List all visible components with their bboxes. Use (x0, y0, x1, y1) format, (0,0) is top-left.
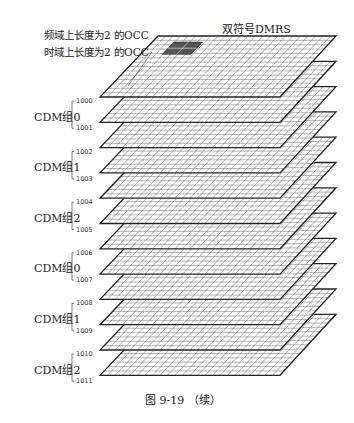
port-label: 1007 (76, 276, 93, 284)
port-label: 1001 (76, 124, 93, 132)
port-label: 1010 (76, 350, 93, 358)
port-label: 1000 (76, 97, 93, 105)
cdm-group-label: CDM组2 (34, 361, 81, 377)
port-label: 1002 (76, 148, 93, 156)
port-label: 1005 (76, 226, 93, 234)
figure-caption: 图 9-19 （续） (145, 391, 221, 407)
freq-occ-label: 频域上长度为2 的OCC (44, 27, 149, 42)
time-occ-label: 时域上长度为2 的OCC (44, 44, 149, 59)
port-label: 1008 (76, 299, 93, 307)
port-label: 1003 (76, 175, 93, 183)
port-label: 1009 (76, 327, 93, 335)
cdm-group-label: CDM组2 (34, 209, 81, 225)
cdm-group-label: CDM组0 (34, 259, 81, 275)
cdm-group-label: CDM组1 (34, 310, 81, 326)
port-label: 1011 (76, 377, 93, 385)
diagram-title: 双符号DMRS (222, 20, 291, 36)
cdm-group-label: CDM组0 (34, 108, 81, 124)
port-label: 1006 (76, 249, 93, 257)
cdm-group-label: CDM组1 (34, 158, 81, 174)
port-label: 1004 (76, 198, 93, 206)
